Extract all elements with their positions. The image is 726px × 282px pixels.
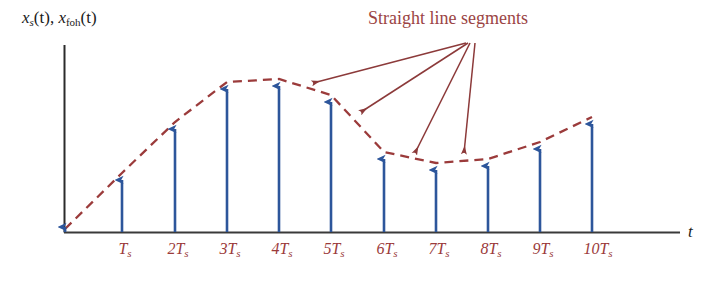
foh-dashed-curve: [65, 79, 592, 229]
tick-label-4Ts: 4Ts: [271, 240, 292, 259]
tick-label-3Ts: 3Ts: [219, 240, 240, 259]
impulse-stems: [65, 86, 592, 232]
tick-label-9Ts: 9Ts: [532, 240, 553, 259]
tick-label-10Ts: 10Ts: [583, 240, 612, 259]
tick-label-6Ts: 6Ts: [376, 240, 397, 259]
tick-label-8Ts: 8Ts: [480, 240, 501, 259]
plot-svg: [0, 0, 726, 282]
tick-label-1Ts: Ts: [118, 240, 131, 259]
leader-to-segment-4: [464, 43, 475, 153]
tick-label-5Ts: 5Ts: [323, 240, 344, 259]
leader-to-segment-1: [313, 43, 466, 83]
tick-label-7Ts: 7Ts: [428, 240, 449, 259]
figure-canvas: xs(t), xfoh(t) Straight line segments t: [0, 0, 726, 282]
tick-label-2Ts: 2Ts: [167, 240, 188, 259]
annotation-leaders: [313, 43, 475, 153]
